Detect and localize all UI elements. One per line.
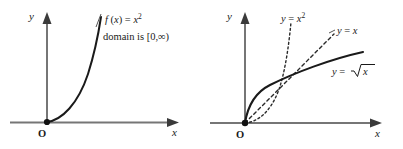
- right-origin-label: O: [236, 129, 244, 140]
- function-label: f (x) = x2: [105, 12, 142, 26]
- right-plot-svg: y x O y = x2 y = x y = x: [200, 0, 403, 149]
- right-y-axis-label: y: [226, 10, 232, 22]
- identity-label-leader: [329, 30, 335, 33]
- origin-dot: [242, 120, 248, 126]
- sqrt-label: y = x: [331, 65, 375, 78]
- parabola-label: y = x2: [280, 11, 306, 24]
- right-x-axis-label: x: [374, 127, 380, 139]
- left-y-axis: [43, 12, 52, 124]
- left-x-axis-label: x: [171, 126, 177, 138]
- svg-text:y =: y =: [331, 66, 345, 77]
- svg-text:x: x: [362, 66, 368, 77]
- square-function-graph: y x O f (x) = x2 domain is [0,∞): [0, 0, 200, 149]
- figure-container: y x O f (x) = x2 domain is [0,∞): [0, 0, 403, 149]
- identity-label: y = x: [336, 25, 358, 36]
- parabola-curve-dotted: [245, 22, 291, 123]
- sqrt-curve: [245, 52, 363, 123]
- right-x-axis: [210, 119, 382, 128]
- inverse-function-graph: y x O y = x2 y = x y = x: [200, 0, 403, 149]
- domain-label: domain is [0,∞): [103, 31, 170, 43]
- identity-line-dashed: [245, 34, 334, 123]
- parabola-curve: [47, 17, 101, 122]
- left-x-axis: [10, 118, 179, 127]
- origin-dot: [44, 119, 50, 125]
- right-y-axis: [241, 12, 250, 124]
- left-plot-svg: y x O f (x) = x2 domain is [0,∞): [0, 0, 200, 149]
- left-origin-label: O: [38, 128, 46, 139]
- left-y-axis-label: y: [28, 10, 34, 22]
